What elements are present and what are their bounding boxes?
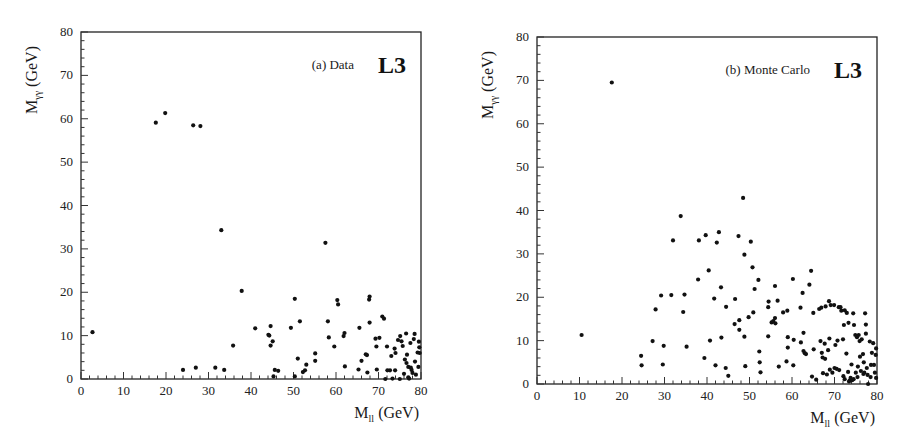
y-axis-title: Mγγ (GeV) bbox=[479, 51, 499, 119]
data-point bbox=[849, 362, 853, 366]
x-tick-label: 10 bbox=[117, 383, 130, 398]
data-point bbox=[399, 339, 403, 343]
data-point bbox=[651, 339, 655, 343]
data-point bbox=[713, 363, 717, 367]
data-point bbox=[271, 339, 275, 343]
data-point bbox=[374, 344, 378, 348]
data-point bbox=[798, 306, 802, 310]
data-point bbox=[773, 284, 777, 288]
data-point bbox=[773, 316, 777, 320]
data-point bbox=[825, 372, 829, 376]
data-point bbox=[871, 341, 875, 345]
data-point bbox=[335, 298, 339, 302]
data-point bbox=[791, 363, 795, 367]
data-point bbox=[323, 241, 327, 245]
data-point bbox=[874, 376, 878, 380]
data-point bbox=[846, 370, 850, 374]
x-tick-label: 20 bbox=[616, 388, 629, 403]
data-point bbox=[776, 299, 780, 303]
data-point bbox=[390, 377, 394, 381]
data-point bbox=[313, 351, 317, 355]
data-point bbox=[407, 377, 411, 381]
data-point bbox=[401, 344, 405, 348]
data-point bbox=[343, 364, 347, 368]
y-tick-label: 70 bbox=[60, 67, 73, 82]
data-point bbox=[863, 311, 867, 315]
data-point bbox=[792, 338, 796, 342]
data-point bbox=[269, 324, 273, 328]
data-point bbox=[580, 333, 584, 337]
data-point bbox=[724, 305, 728, 309]
data-point bbox=[181, 368, 185, 372]
x-tick-label: 70 bbox=[828, 388, 841, 403]
data-point bbox=[812, 347, 816, 351]
y-tick-label: 40 bbox=[60, 198, 73, 213]
data-point bbox=[846, 321, 850, 325]
data-point bbox=[408, 341, 412, 345]
y-tick-label: 60 bbox=[60, 111, 73, 126]
y-tick-label: 50 bbox=[516, 159, 529, 174]
data-point bbox=[818, 339, 822, 343]
data-point bbox=[276, 369, 280, 373]
x-tick-label: 80 bbox=[415, 383, 428, 398]
data-point bbox=[413, 360, 417, 364]
data-point bbox=[707, 268, 711, 272]
axis-ticks bbox=[81, 32, 421, 379]
data-point bbox=[388, 368, 392, 372]
data-point bbox=[417, 340, 421, 344]
data-point bbox=[824, 304, 828, 308]
data-point bbox=[715, 241, 719, 245]
data-point bbox=[869, 375, 873, 379]
y-tick-label: 20 bbox=[516, 289, 529, 304]
data-point bbox=[365, 370, 369, 374]
data-point bbox=[823, 342, 827, 346]
data-point bbox=[845, 311, 849, 315]
data-point bbox=[852, 377, 856, 381]
data-point bbox=[766, 334, 770, 338]
x-tick-label: 50 bbox=[287, 383, 300, 398]
data-point bbox=[826, 348, 830, 352]
data-point bbox=[874, 353, 878, 357]
data-point bbox=[855, 375, 859, 379]
data-point bbox=[368, 321, 372, 325]
data-point bbox=[719, 285, 723, 289]
data-point bbox=[681, 310, 685, 314]
l3-logo: L3 bbox=[378, 52, 406, 78]
data-point bbox=[704, 233, 708, 237]
data-point bbox=[862, 360, 866, 364]
l3-logo: L3 bbox=[834, 57, 862, 83]
data-point bbox=[821, 371, 825, 375]
data-point bbox=[750, 265, 754, 269]
data-point bbox=[365, 353, 369, 357]
data-point bbox=[659, 293, 663, 297]
y-tick-label: 50 bbox=[60, 154, 73, 169]
data-point bbox=[289, 326, 293, 330]
data-point bbox=[405, 353, 409, 357]
y-tick-label: 80 bbox=[60, 24, 73, 39]
data-point bbox=[708, 339, 712, 343]
data-point bbox=[835, 339, 839, 343]
data-point bbox=[402, 372, 406, 376]
x-tick-label: 50 bbox=[743, 388, 756, 403]
data-point bbox=[327, 335, 331, 339]
x-tick-label: 0 bbox=[534, 388, 541, 403]
data-point bbox=[696, 277, 700, 281]
y-axis-title: Mγγ (GeV) bbox=[23, 46, 43, 114]
data-point bbox=[784, 359, 788, 363]
data-point bbox=[841, 337, 845, 341]
data-point bbox=[844, 352, 848, 356]
x-tick-label: 30 bbox=[202, 383, 215, 398]
data-point bbox=[781, 310, 785, 314]
plot-frame bbox=[537, 37, 877, 384]
data-point bbox=[417, 345, 421, 349]
data-point bbox=[860, 337, 864, 341]
data-point bbox=[418, 351, 422, 355]
data-point bbox=[639, 354, 643, 358]
data-point bbox=[870, 351, 874, 355]
data-point bbox=[640, 363, 644, 367]
data-point bbox=[801, 331, 805, 335]
data-point bbox=[724, 366, 728, 370]
data-point bbox=[830, 371, 834, 375]
data-point bbox=[383, 377, 387, 381]
data-point bbox=[777, 365, 781, 369]
